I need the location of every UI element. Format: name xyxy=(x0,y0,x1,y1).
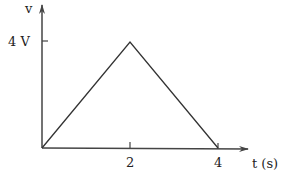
x-axis-label: t (s) xyxy=(252,156,278,171)
voltage-series-line xyxy=(42,42,218,148)
x-axis xyxy=(42,148,248,149)
x-tick-label-2: 2 xyxy=(126,155,134,170)
y-axis-label: v xyxy=(24,1,33,16)
y-tick-label-4: 4 V xyxy=(8,34,30,49)
x-tick-label-4: 4 xyxy=(214,155,222,170)
triangle-voltage-chart: v 4 V 2 4 t (s) xyxy=(0,0,307,188)
